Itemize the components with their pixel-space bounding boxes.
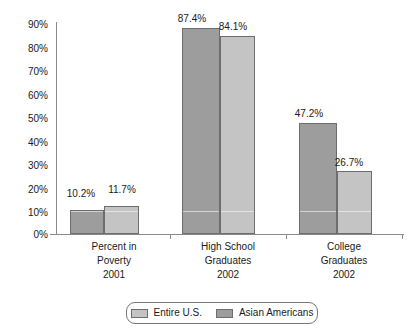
legend-swatch-entire-us-icon [131, 309, 148, 318]
bar-poverty-entire-us[interactable] [104, 206, 139, 234]
category-label-college: College Graduates 2002 [286, 240, 402, 282]
category-poverty-line1: Percent in [58, 240, 170, 254]
y-tick-label-80: 80% [8, 44, 48, 54]
y-tick-70: 70% [4, 67, 48, 77]
legend-label-asian-americans: Asian Americans [239, 308, 313, 318]
bar-college-entire-us[interactable] [337, 171, 372, 234]
value-label-college-entire-us: 26.7% [325, 157, 373, 168]
y-tick-label-60: 60% [8, 91, 48, 101]
category-college-line1: College [286, 240, 402, 254]
legend-swatch-asian-americans-icon [216, 309, 233, 318]
category-highschool-line1: High School [170, 240, 286, 254]
category-poverty-line2: Poverty [58, 254, 170, 268]
legend-item-asian-americans[interactable]: Asian Americans [216, 308, 313, 318]
y-tick-30: 30% [4, 161, 48, 171]
y-tick-label-0: 0% [8, 230, 48, 240]
x-axis-origin-tick [50, 234, 56, 235]
bar-highschool-entire-us[interactable] [220, 36, 255, 234]
category-poverty-line3: 2001 [58, 268, 170, 282]
y-tick-40: 40% [4, 138, 48, 148]
category-highschool-line3: 2002 [170, 268, 286, 282]
y-tick-90: 90% [4, 20, 48, 30]
category-college-line2: Graduates [286, 254, 402, 268]
bar-highschool-asian-americans[interactable] [182, 28, 220, 234]
category-highschool-line2: Graduates [170, 254, 286, 268]
x-tick-boundary-3 [402, 234, 403, 239]
y-tick-10: 10% [4, 208, 48, 218]
y-tick-80: 80% [4, 44, 48, 54]
value-label-college-asian-americans: 47.2% [285, 108, 333, 119]
y-tick-label-10: 10% [8, 208, 48, 218]
value-label-poverty-asian-americans: 10.2% [58, 188, 104, 199]
legend-item-entire-us[interactable]: Entire U.S. [131, 308, 202, 318]
y-tick-label-30: 30% [8, 161, 48, 171]
x-tick-boundary-2 [286, 234, 287, 239]
y-tick-label-50: 50% [8, 114, 48, 124]
bar-poverty-asian-americans[interactable] [70, 210, 104, 234]
chart-legend: Entire U.S. Asian Americans [126, 302, 318, 324]
category-label-poverty: Percent in Poverty 2001 [58, 240, 170, 282]
y-tick-0: 0% [4, 230, 48, 240]
y-tick-20: 20% [4, 185, 48, 195]
plot-area [56, 22, 401, 234]
x-tick-boundary-1 [170, 234, 171, 239]
y-tick-label-40: 40% [8, 138, 48, 148]
bar-college-asian-americans[interactable] [299, 123, 337, 234]
y-tick-label-90: 90% [8, 20, 48, 30]
y-tick-label-70: 70% [8, 67, 48, 77]
x-axis-line [56, 234, 404, 235]
value-label-highschool-entire-us: 84.1% [209, 21, 257, 32]
bar-chart: 90% 80% 70% 60% 50% 40% 30% 20% 10% 0% [0, 0, 416, 336]
y-tick-60: 60% [4, 91, 48, 101]
category-label-highschool: High School Graduates 2002 [170, 240, 286, 282]
y-tick-label-20: 20% [8, 185, 48, 195]
value-label-poverty-entire-us: 11.7% [99, 184, 145, 195]
y-tick-50: 50% [4, 114, 48, 124]
legend-label-entire-us: Entire U.S. [154, 308, 202, 318]
category-college-line3: 2002 [286, 268, 402, 282]
